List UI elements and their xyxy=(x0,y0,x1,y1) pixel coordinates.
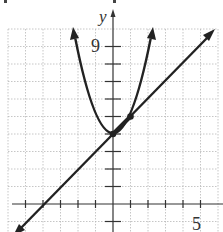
y-axis-label: y xyxy=(97,7,107,26)
graph: y 9 5 xyxy=(0,0,223,232)
y-tick-label-9: 9 xyxy=(91,36,100,56)
x-tick-label-5: 5 xyxy=(192,214,201,232)
y-axis-arrow-icon xyxy=(111,9,116,17)
overlap-segment xyxy=(113,117,131,135)
cutoff-text xyxy=(4,0,116,3)
